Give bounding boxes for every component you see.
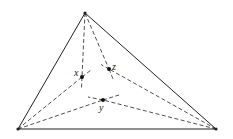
dashed-lines (18, 13, 216, 129)
label-x: x (73, 67, 79, 78)
point-x (80, 75, 84, 79)
label-z: z (111, 61, 116, 72)
point-z (107, 67, 111, 71)
label-y: y (98, 102, 104, 113)
triangle-edges (18, 13, 216, 129)
interior-points (80, 67, 111, 102)
triangle-diagram: x z y (0, 0, 233, 139)
